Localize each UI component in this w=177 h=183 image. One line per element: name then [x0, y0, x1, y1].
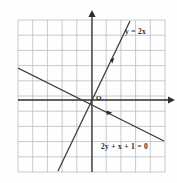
graph-figure: y = 2x 2y + x + 1 = 0 O — [0, 0, 177, 183]
line1-equation-label: y = 2x — [125, 27, 146, 36]
coordinate-plane-svg — [0, 0, 177, 183]
origin-label: O — [96, 94, 101, 102]
line2-equation-label: 2y + x + 1 = 0 — [101, 142, 148, 151]
y-axis-arrow-icon — [88, 10, 95, 17]
x-axis-arrow-icon — [168, 96, 175, 103]
